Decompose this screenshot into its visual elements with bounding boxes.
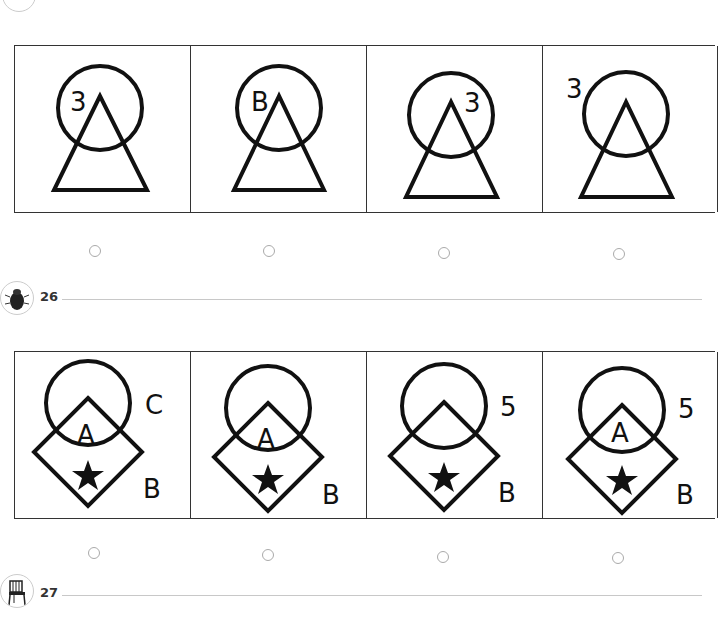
option-26-a[interactable]: A C B	[15, 352, 191, 518]
radio-26-b[interactable]	[262, 549, 274, 561]
radio-26-a[interactable]	[88, 547, 100, 559]
option-26-d[interactable]: A 5 B	[542, 352, 718, 518]
svg-text:B: B	[251, 87, 269, 117]
svg-text:3: 3	[70, 87, 87, 117]
svg-text:A: A	[77, 420, 95, 450]
svg-text:C: C	[145, 390, 163, 420]
svg-text:B: B	[322, 480, 340, 510]
svg-text:3: 3	[566, 74, 583, 104]
svg-text:5: 5	[678, 394, 695, 424]
figure-circle-triangle: 3	[367, 46, 542, 212]
previous-radio-partial	[2, 0, 36, 12]
option-25-d[interactable]: 3	[542, 46, 718, 212]
svg-text:B: B	[498, 478, 516, 508]
question-number: 27	[40, 585, 58, 600]
question-26-options: A C B A B 5 B A 5 B	[14, 351, 715, 519]
radio-25-a[interactable]	[89, 245, 101, 257]
svg-text:B: B	[143, 474, 161, 504]
beetle-icon	[0, 281, 34, 315]
svg-text:5: 5	[500, 392, 517, 422]
figure-circle-diamond-star: A C B	[15, 352, 190, 518]
question-divider	[62, 595, 702, 596]
radio-26-d[interactable]	[612, 552, 624, 564]
figure-circle-triangle: 3	[542, 46, 717, 212]
question-number: 26	[40, 289, 58, 304]
figure-circle-triangle: B	[191, 46, 366, 212]
svg-text:B: B	[676, 480, 694, 510]
radio-25-d[interactable]	[613, 248, 625, 260]
question-25-options: 3 B 3 3	[14, 45, 715, 213]
option-26-c[interactable]: 5 B	[367, 352, 543, 518]
svg-text:3: 3	[464, 88, 481, 118]
option-25-c[interactable]: 3	[367, 46, 543, 212]
option-25-a[interactable]: 3	[15, 46, 191, 212]
svg-text:A: A	[257, 424, 275, 454]
chair-icon	[0, 574, 34, 608]
figure-circle-diamond-star: A B	[191, 352, 366, 518]
radio-25-b[interactable]	[263, 245, 275, 257]
radio-25-c[interactable]	[438, 247, 450, 259]
option-25-b[interactable]: B	[191, 46, 367, 212]
figure-circle-diamond-star: 5 B	[367, 352, 542, 518]
radio-26-c[interactable]	[437, 551, 449, 563]
svg-text:A: A	[611, 418, 629, 448]
figure-circle-triangle: 3	[15, 46, 190, 212]
figure-circle-diamond-star: A 5 B	[542, 352, 717, 518]
question-divider	[62, 299, 702, 300]
option-26-b[interactable]: A B	[191, 352, 367, 518]
